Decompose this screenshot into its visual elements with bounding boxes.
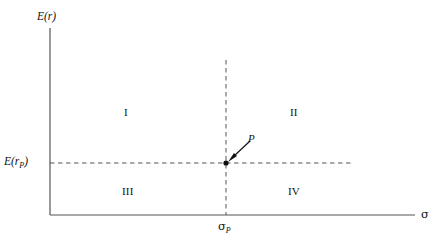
y-axis-title-text: E(r) [37,10,56,22]
quadrant-label-iii: III [122,186,134,197]
e-rp-close-paren: ) [24,155,28,167]
diagram-canvas [0,0,446,240]
quadrant-label-ii: II [290,107,298,118]
x-axis-title-text: σ [421,207,429,221]
e-rp-axis-label: E(rP) [4,156,28,170]
point-annotation-arrow [228,141,250,162]
quadrant-label-i: I [124,107,128,118]
sigma-p-axis-label: σP [218,221,231,235]
y-axis-title: E(r) [37,11,56,23]
portfolio-point-p [223,160,228,165]
x-axis-title: σ [421,209,429,221]
quadrant-label-iv: IV [288,186,300,197]
sigma-p-subscript: P [226,226,231,235]
e-rp-main-text: E(r [4,155,19,167]
point-label-p: P [248,133,255,144]
quadrant-risk-return-diagram: E(r) σ E(rP) σP I II III IV P [0,0,446,240]
sigma-p-main-text: σ [218,219,226,233]
